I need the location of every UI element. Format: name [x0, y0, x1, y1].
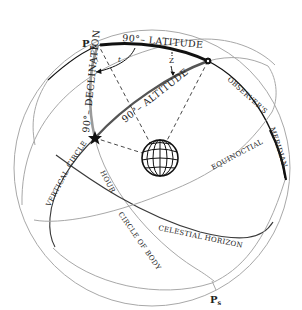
vertical-label: VERTICAL	[44, 169, 70, 209]
zenith-distance-label: 90°– ALTITUDE	[119, 66, 190, 125]
lower-back-arc	[53, 180, 285, 290]
celestial-sphere-diagram: t Z Pn Ps 90°– LATITUDE 90°– DECLINATION…	[0, 0, 302, 310]
earth-globe-icon	[142, 140, 178, 176]
azimuth-angle-label: Z	[169, 57, 174, 65]
vertical-circle-label: CIRCLE	[65, 140, 89, 170]
hour-label: HOUR	[98, 169, 117, 195]
south-pole-label: Ps	[210, 294, 222, 307]
meridian-angle-label: t	[118, 56, 121, 64]
observers-label: OBSERVER'S	[226, 76, 269, 116]
left-back-arc	[33, 80, 48, 145]
equinoctial-label: EQUINOCTIAL	[210, 138, 264, 172]
